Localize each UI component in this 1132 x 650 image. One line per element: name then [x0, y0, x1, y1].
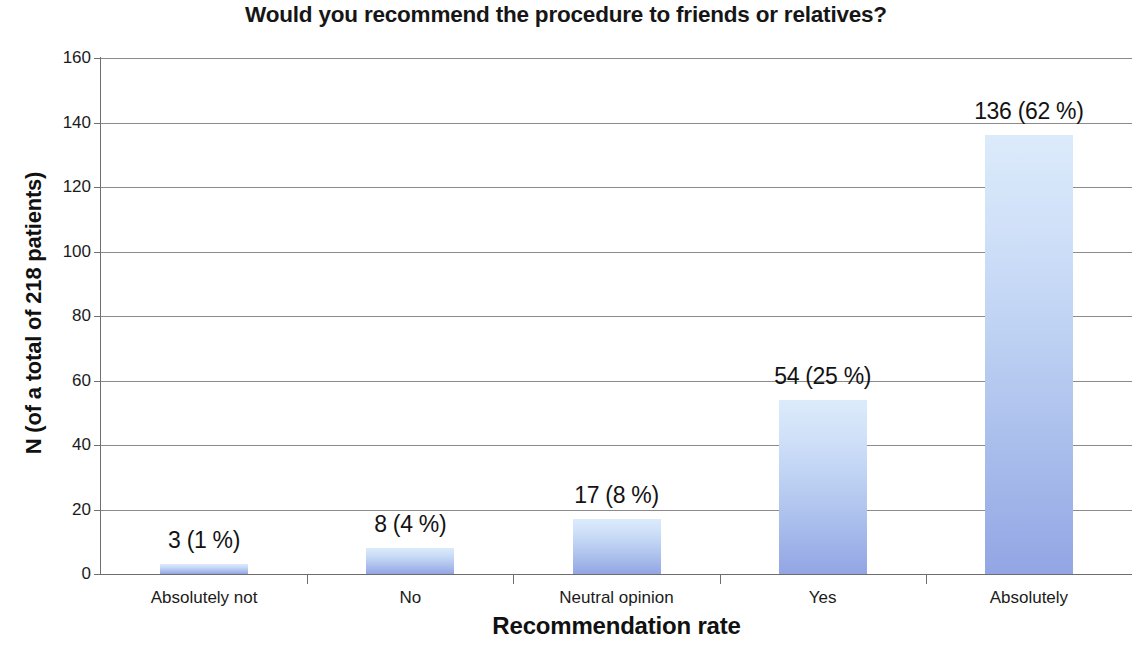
chart-title: Would you recommend the procedure to fri… — [0, 2, 1132, 28]
x-tick-label: Yes — [713, 588, 933, 608]
y-tick-label: 160 — [31, 49, 91, 66]
gridline — [101, 381, 1132, 382]
bar[interactable] — [985, 135, 1073, 574]
y-tick-label: 20 — [31, 501, 91, 518]
bar-value-label: 136 (62 %) — [909, 98, 1132, 125]
y-tick-label: 60 — [31, 372, 91, 389]
x-tick-label: Absolutely not — [94, 588, 314, 608]
bar-value-label: 8 (4 %) — [290, 511, 530, 538]
y-tick-label: 80 — [31, 307, 91, 324]
gridline — [101, 187, 1132, 188]
gridline — [101, 316, 1132, 317]
bar-value-label: 3 (1 %) — [84, 527, 324, 554]
gridline — [101, 510, 1132, 511]
gridline — [101, 574, 1132, 575]
x-tick-mark — [720, 575, 721, 584]
gridline — [101, 445, 1132, 446]
bar[interactable] — [160, 564, 248, 574]
y-tick-label: 140 — [31, 114, 91, 131]
x-tick-mark — [513, 575, 514, 584]
x-tick-label: Absolutely — [919, 588, 1132, 608]
y-tick-label: 120 — [31, 178, 91, 195]
bar-value-label: 54 (25 %) — [703, 363, 943, 390]
x-axis-title: Recommendation rate — [101, 612, 1132, 640]
y-tick-label: 0 — [31, 565, 91, 582]
x-tick-mark — [926, 575, 927, 584]
gridline — [101, 58, 1132, 59]
bar-value-label: 17 (8 %) — [497, 482, 737, 509]
gridline — [101, 252, 1132, 253]
y-tick-label: 100 — [31, 243, 91, 260]
bar[interactable] — [573, 519, 661, 574]
bar[interactable] — [366, 548, 454, 574]
x-tick-label: Neutral opinion — [507, 588, 727, 608]
bar-chart-figure: Would you recommend the procedure to fri… — [0, 0, 1132, 650]
bar[interactable] — [779, 400, 867, 574]
x-tick-label: No — [300, 588, 520, 608]
y-tick-label: 40 — [31, 436, 91, 453]
x-tick-mark — [307, 575, 308, 584]
plot-area: 3 (1 %)8 (4 %)17 (8 %)54 (25 %)136 (62 %… — [101, 58, 1132, 574]
